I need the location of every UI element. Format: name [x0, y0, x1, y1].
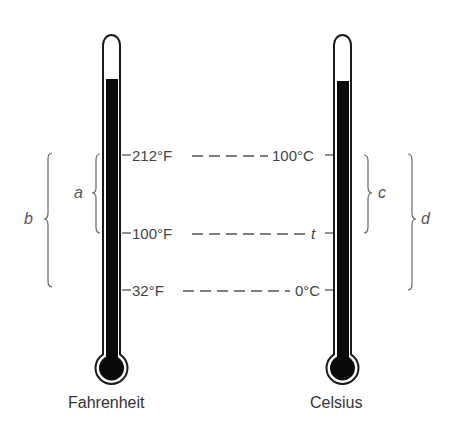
- brace-c: [364, 155, 372, 233]
- label-0C: 0°C: [295, 283, 320, 298]
- label-t: t: [311, 226, 315, 241]
- brace-b: [44, 153, 52, 287]
- fahrenheit-mercury-column: [106, 79, 118, 359]
- caption-celsius: Celsius: [310, 395, 362, 411]
- label-212F: 212°F: [132, 148, 172, 163]
- celsius-thermometer: [327, 35, 359, 384]
- label-100F: 100°F: [132, 226, 172, 241]
- brace-label-c: c: [378, 185, 386, 201]
- brace-label-a: a: [74, 185, 83, 201]
- brace-d: [408, 154, 416, 290]
- brace-label-b: b: [24, 211, 33, 227]
- celsius-bulb: [330, 356, 355, 381]
- brace-a: [92, 154, 100, 233]
- label-32F: 32°F: [132, 283, 164, 298]
- fahrenheit-thermometer: [96, 35, 128, 384]
- label-100C: 100°C: [272, 148, 314, 163]
- thermometer-diagram: [0, 0, 455, 434]
- fahrenheit-bulb: [99, 356, 124, 381]
- caption-fahrenheit: Fahrenheit: [68, 395, 145, 411]
- celsius-mercury-column: [337, 81, 349, 359]
- brace-label-d: d: [421, 211, 430, 227]
